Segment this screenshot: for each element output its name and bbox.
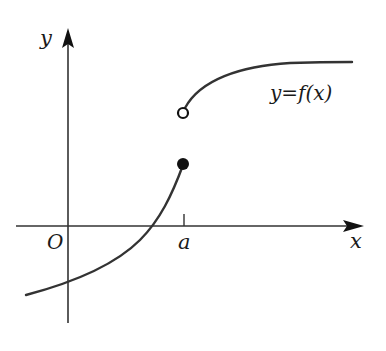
filled-dot-point <box>177 158 189 170</box>
tick-label-a: a <box>178 230 191 254</box>
origin-label: O <box>47 230 63 254</box>
function-graph: y x O a y=f(x) <box>0 0 386 351</box>
open-circle-point <box>178 108 188 118</box>
function-label: y=f(x) <box>269 81 332 105</box>
y-axis-label: y <box>39 26 53 50</box>
x-axis-label: x <box>350 229 362 253</box>
